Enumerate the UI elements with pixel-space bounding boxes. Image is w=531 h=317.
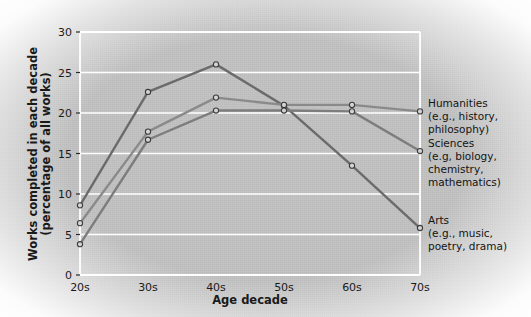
x-axis-title: Age decade xyxy=(212,293,288,307)
y-axis-ticks: 051015202530 xyxy=(58,26,80,282)
data-point-sciences-40s xyxy=(213,108,218,113)
legend-entry-humanities: Humanities(e.g., history,philosophy) xyxy=(428,97,498,135)
legend-label-arts-line3: poetry, drama) xyxy=(428,240,507,252)
data-point-arts-70s xyxy=(417,225,422,230)
data-point-humanities-20s xyxy=(77,221,82,226)
data-point-humanities-70s xyxy=(417,109,422,114)
y-axis-title-line2: (percentage of all works) xyxy=(39,72,53,236)
legend-label-humanities-line1: Humanities xyxy=(428,97,488,109)
data-point-humanities-50s xyxy=(281,102,286,107)
legend-label-sciences-line2: (e.g, biology, xyxy=(428,150,497,162)
y-tick-label-30: 30 xyxy=(58,26,72,39)
series-line-arts xyxy=(80,64,420,228)
figure-container: 051015202530 20s30s40s50s60s70s Age deca… xyxy=(0,0,531,317)
y-axis-title-line1: Works completed in each decade xyxy=(26,47,40,261)
x-tick-label-30s: 30s xyxy=(138,281,158,294)
data-point-sciences-20s xyxy=(77,242,82,247)
y-tick-label-15: 15 xyxy=(58,148,72,161)
data-point-arts-30s xyxy=(145,89,150,94)
data-point-humanities-30s xyxy=(145,129,150,134)
x-tick-label-60s: 60s xyxy=(342,281,362,294)
legend-entry-arts: Arts(e.g., music,poetry, drama) xyxy=(428,214,507,252)
y-tick-label-20: 20 xyxy=(58,107,72,120)
legend-label-humanities-line2: (e.g., history, xyxy=(428,110,498,122)
legend-label-sciences-line1: Sciences xyxy=(428,137,474,149)
data-point-sciences-50s xyxy=(281,108,286,113)
line-chart: 051015202530 20s30s40s50s60s70s Age deca… xyxy=(0,0,531,317)
legend-label-arts-line1: Arts xyxy=(428,214,449,226)
data-point-humanities-40s xyxy=(213,95,218,100)
legend-label-sciences-line4: mathematics) xyxy=(428,176,501,188)
data-point-sciences-70s xyxy=(417,148,422,153)
series-line-sciences xyxy=(80,111,420,245)
legend-label-humanities-line3: philosophy) xyxy=(428,123,489,135)
legend-label-arts-line2: (e.g., music, xyxy=(428,227,493,239)
data-point-sciences-60s xyxy=(349,109,354,114)
y-tick-label-25: 25 xyxy=(58,67,72,80)
y-tick-label-5: 5 xyxy=(65,229,72,242)
data-point-arts-40s xyxy=(213,62,218,67)
x-tick-label-70s: 70s xyxy=(410,281,430,294)
legend: Humanities(e.g., history,philosophy)Scie… xyxy=(428,97,507,252)
x-tick-label-20s: 20s xyxy=(70,281,90,294)
legend-label-sciences-line3: chemistry, xyxy=(428,163,484,175)
data-series-group xyxy=(77,62,422,247)
data-point-arts-20s xyxy=(77,203,82,208)
data-point-sciences-30s xyxy=(145,137,150,142)
series-line-humanities xyxy=(80,98,420,224)
data-point-humanities-60s xyxy=(349,102,354,107)
y-tick-label-10: 10 xyxy=(58,188,72,201)
legend-entry-sciences: Sciences(e.g, biology,chemistry,mathemat… xyxy=(428,137,501,188)
data-point-arts-60s xyxy=(349,163,354,168)
